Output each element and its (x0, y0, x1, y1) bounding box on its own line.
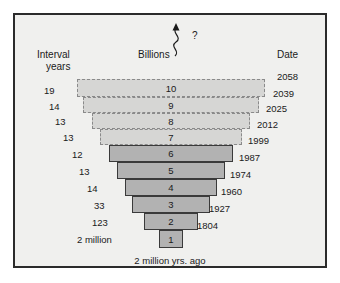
interval-label-1: 2 million (77, 234, 112, 245)
interval-label-3: 33 (94, 200, 105, 211)
bar-value-5: 5 (168, 165, 173, 176)
interval-label-9: 14 (49, 101, 60, 112)
interval-label-4: 14 (87, 183, 98, 194)
header-date: Date (277, 49, 298, 60)
growth-arrow-group: ? (161, 18, 221, 58)
interval-label-7: 13 (63, 132, 74, 143)
bar-value-6: 6 (168, 148, 173, 159)
date-label-6: 1999 (248, 135, 269, 146)
bar-7: 7 (100, 129, 242, 145)
bar-value-3: 3 (168, 199, 173, 210)
bar-3: 3 (132, 196, 210, 213)
figure-caption: 2 million yrs. ago (15, 255, 325, 266)
bar-value-9: 9 (168, 100, 173, 111)
question-mark-label: ? (192, 30, 198, 41)
figure-frame: ? Interval years Billions Date 19 10 205… (13, 13, 327, 268)
bar-2: 2 (144, 213, 198, 230)
interval-label-2: 123 (92, 217, 108, 228)
bar-4: 4 (125, 179, 217, 196)
date-label-7: 2012 (257, 119, 278, 130)
bar-9: 9 (83, 97, 259, 113)
interval-label-5: 13 (79, 166, 90, 177)
header-billions: Billions (138, 49, 170, 60)
bar-1: 1 (159, 230, 183, 248)
interval-label-8: 13 (55, 116, 66, 127)
bar-value-4: 4 (168, 182, 173, 193)
bar-value-7: 7 (168, 132, 173, 143)
interval-label-10: 19 (44, 85, 55, 96)
bar-value-10: 10 (166, 83, 177, 94)
date-label-2: 1927 (209, 203, 230, 214)
bar-6: 6 (109, 145, 233, 162)
header-interval-line1: Interval (37, 49, 70, 60)
date-label-9: 2039 (273, 88, 294, 99)
date-label-4: 1974 (230, 169, 251, 180)
date-label-8: 2025 (266, 103, 287, 114)
date-label-5: 1987 (239, 152, 260, 163)
bar-value-2: 2 (168, 216, 173, 227)
date-label-1: 1804 (197, 220, 218, 231)
date-label-10: 2058 (277, 71, 298, 82)
header-interval-line2: years (46, 61, 70, 72)
bar-10: 10 (77, 79, 265, 97)
squiggly-up-arrow-icon (161, 18, 221, 58)
bar-value-1: 1 (168, 234, 173, 245)
bar-8: 8 (92, 113, 250, 129)
interval-label-6: 12 (72, 149, 83, 160)
date-label-3: 1960 (221, 186, 242, 197)
bar-value-8: 8 (168, 116, 173, 127)
bar-5: 5 (117, 162, 225, 179)
